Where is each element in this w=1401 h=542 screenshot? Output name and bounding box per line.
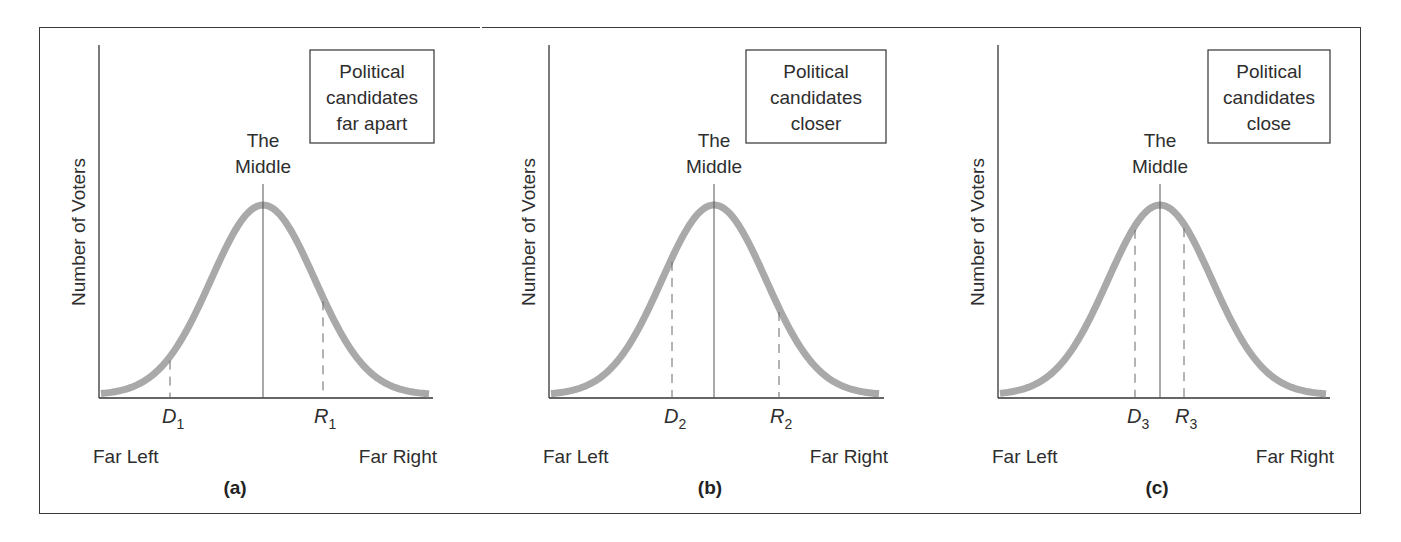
y-axis-label: Number of Voters xyxy=(967,158,988,306)
middle-label-line-1: The xyxy=(1144,130,1177,151)
panel-b: Political candidates closer The Middle N… xyxy=(518,45,889,498)
title-box-line-1: Political xyxy=(1236,61,1301,82)
title-box-line-3: far apart xyxy=(337,113,408,134)
panel-a: Political candidates far apart The Middl… xyxy=(68,45,438,498)
panel-label: (b) xyxy=(698,477,722,498)
d-candidate-label: D1 xyxy=(162,405,184,432)
voter-distribution-figure: Political candidates far apart The Middl… xyxy=(0,0,1401,542)
far-left-label: Far Left xyxy=(93,446,159,467)
far-left-label: Far Left xyxy=(992,446,1058,467)
far-left-label: Far Left xyxy=(543,446,609,467)
title-box-line-3: closer xyxy=(791,113,842,134)
middle-label-line-2: Middle xyxy=(235,156,291,177)
y-axis-label: Number of Voters xyxy=(68,158,89,306)
bell-curve xyxy=(1000,205,1326,394)
middle-label-line-2: Middle xyxy=(686,156,742,177)
title-box-line-1: Political xyxy=(783,61,848,82)
middle-label-line-2: Middle xyxy=(1132,156,1188,177)
bell-curve xyxy=(101,205,429,394)
charts-canvas: Political candidates far apart The Middl… xyxy=(0,0,1401,542)
r-candidate-label: R1 xyxy=(314,405,336,432)
d-candidate-label: D3 xyxy=(1127,405,1149,432)
title-box-line-1: Political xyxy=(339,61,404,82)
panel-label: (a) xyxy=(223,477,246,498)
far-right-label: Far Right xyxy=(810,446,889,467)
d-candidate-label: D2 xyxy=(664,405,686,432)
title-box-line-2: candidates xyxy=(1223,87,1315,108)
bell-curve xyxy=(551,205,879,394)
title-box-line-3: close xyxy=(1247,113,1291,134)
title-box-line-2: candidates xyxy=(770,87,862,108)
middle-label-line-1: The xyxy=(698,130,731,151)
far-right-label: Far Right xyxy=(1256,446,1335,467)
y-axis-label: Number of Voters xyxy=(518,158,539,306)
title-box-line-2: candidates xyxy=(326,87,418,108)
panel-c: Political candidates close The Middle Nu… xyxy=(967,45,1335,498)
r-candidate-label: R3 xyxy=(1175,405,1197,432)
middle-label-line-1: The xyxy=(247,130,280,151)
panel-label: (c) xyxy=(1145,477,1168,498)
far-right-label: Far Right xyxy=(359,446,438,467)
r-candidate-label: R2 xyxy=(770,405,792,432)
